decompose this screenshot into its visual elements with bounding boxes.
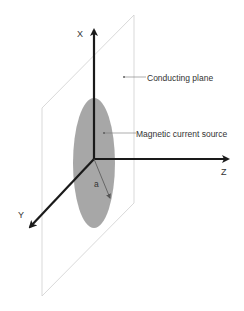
- radius-label: a: [94, 179, 99, 189]
- source-leader-dot: [103, 132, 105, 134]
- y-axis-label: Y: [18, 210, 24, 220]
- x-axis-label: X: [77, 29, 83, 39]
- diagram-canvas: X Z Y a Conducting plane Magnetic curren…: [0, 0, 244, 311]
- conducting-plane-label: Conducting plane: [147, 73, 213, 83]
- plane-leader-dot: [123, 76, 125, 78]
- magnetic-current-source-label: Magnetic current source: [136, 129, 227, 139]
- z-axis-label: Z: [221, 167, 227, 177]
